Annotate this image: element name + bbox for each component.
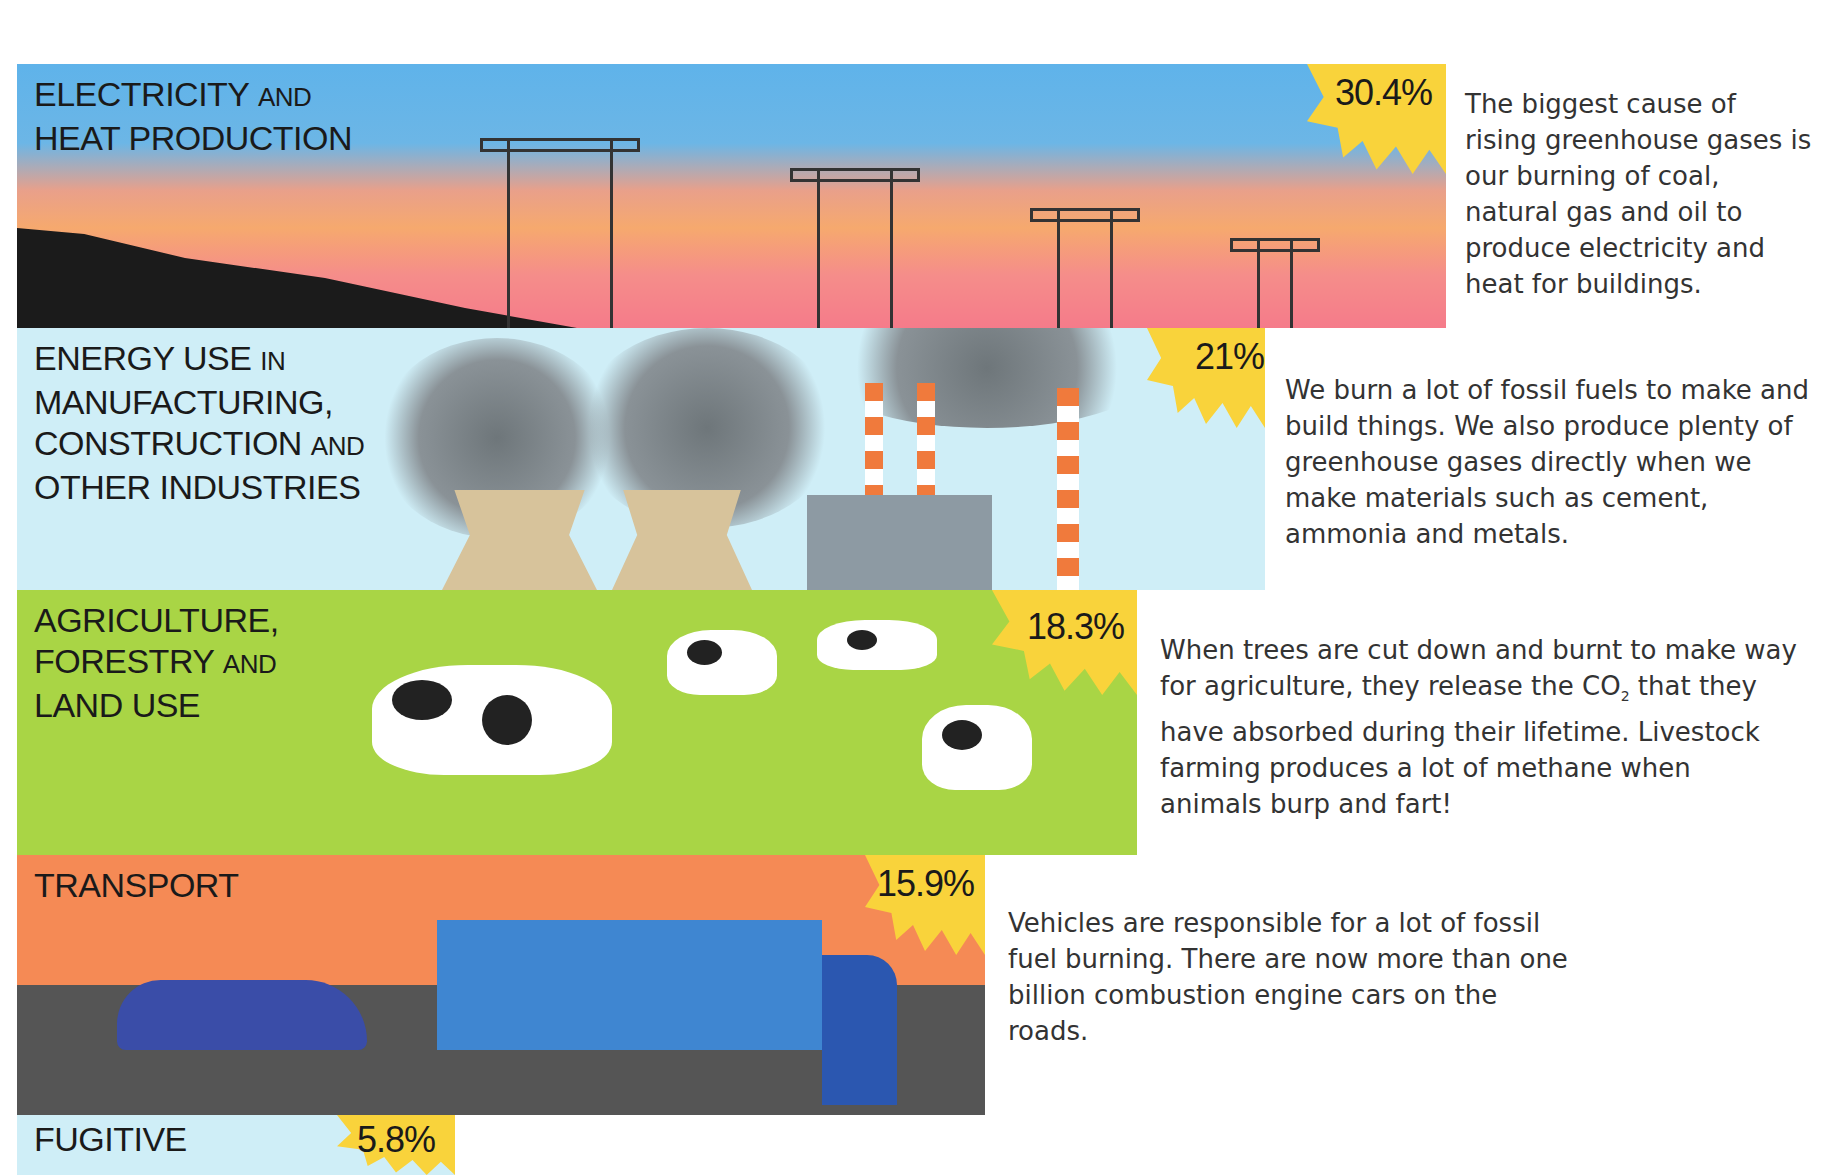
pylon-icon bbox=[1257, 238, 1293, 328]
sector-transport-band: TRANSPORT 15.9% bbox=[17, 855, 985, 1115]
sector-electricity-band: ELECTRICITY AND HEAT PRODUCTION 30.4% bbox=[17, 64, 1446, 328]
percent-value: 18.3% bbox=[1027, 606, 1124, 648]
sector-fugitive-band: FUGITIVE 5.8% bbox=[17, 1115, 455, 1175]
percent-value: 21% bbox=[1195, 336, 1264, 378]
pylon-icon bbox=[1057, 208, 1113, 328]
sector-label: AGRICULTURE, FORESTRY AND LAND USE bbox=[34, 600, 279, 726]
sector-description: We burn a lot of fossil fuels to make an… bbox=[1285, 372, 1815, 552]
sector-industry-band: ENERGY USE IN MANUFACTURING, CONSTRUCTIO… bbox=[17, 328, 1265, 590]
sector-label: ENERGY USE IN MANUFACTURING, CONSTRUCTIO… bbox=[34, 338, 364, 508]
sector-label: FUGITIVE bbox=[34, 1119, 187, 1160]
sector-label: TRANSPORT bbox=[34, 865, 239, 906]
cow-icon bbox=[922, 705, 1032, 790]
cow-icon bbox=[817, 620, 937, 670]
factory-icon bbox=[807, 495, 992, 590]
chimney-icon bbox=[917, 383, 935, 508]
percent-value: 30.4% bbox=[1335, 72, 1432, 114]
truck-icon bbox=[437, 920, 822, 1050]
cow-icon bbox=[372, 665, 612, 775]
cooling-tower-icon bbox=[442, 490, 597, 590]
pylon-icon bbox=[507, 138, 613, 328]
sector-agriculture-band: AGRICULTURE, FORESTRY AND LAND USE 18.3% bbox=[17, 590, 1137, 855]
hill-silhouette bbox=[17, 228, 577, 328]
cow-icon bbox=[667, 630, 777, 695]
sector-label: ELECTRICITY AND HEAT PRODUCTION bbox=[34, 74, 352, 159]
chimney-icon bbox=[865, 383, 883, 508]
cooling-tower-icon bbox=[612, 490, 752, 590]
truck-cab-icon bbox=[822, 955, 897, 1105]
lattice-chimney-icon bbox=[1057, 388, 1079, 590]
percent-value: 5.8% bbox=[357, 1119, 435, 1161]
car-icon bbox=[117, 980, 367, 1050]
sector-description: The biggest cause of rising greenhouse g… bbox=[1465, 86, 1815, 302]
percent-value: 15.9% bbox=[877, 863, 974, 905]
sector-description: Vehicles are responsible for a lot of fo… bbox=[1008, 905, 1568, 1049]
sector-description: When trees are cut down and burnt to mak… bbox=[1160, 632, 1800, 822]
pylon-icon bbox=[817, 168, 893, 328]
